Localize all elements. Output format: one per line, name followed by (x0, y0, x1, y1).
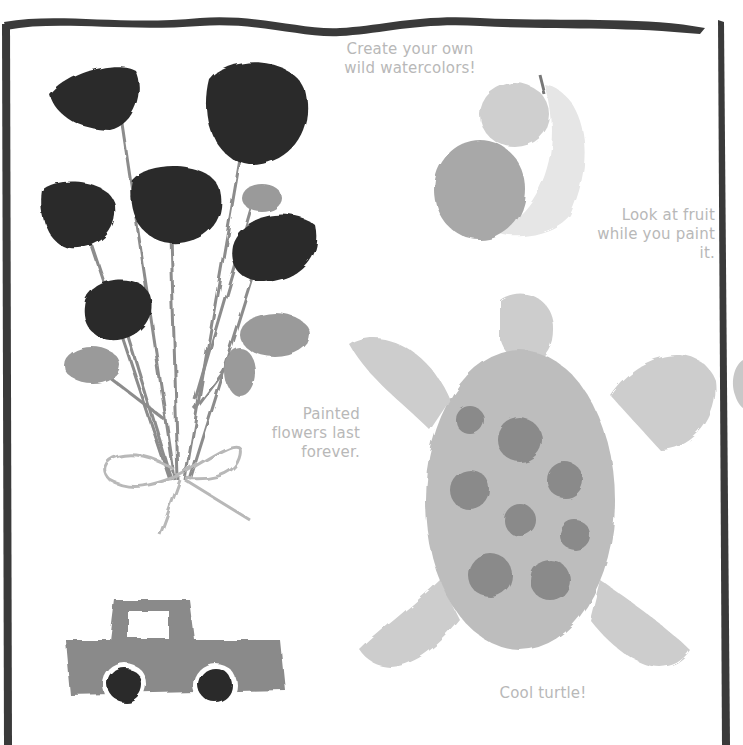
turtle-illustration (350, 293, 716, 666)
caption-create-watercolors: Create your own wild watercolors! (330, 40, 490, 78)
fruit-illustration (434, 75, 585, 240)
flower-bouquet (41, 62, 316, 535)
caption-painted-flowers: Painted flowers last forever. (255, 405, 360, 462)
watercolor-page-artwork (0, 0, 743, 745)
caption-cool-turtle: Cool turtle! (488, 684, 598, 703)
caption-look-at-fruit: Look at fruit while you paint it. (590, 206, 715, 263)
truck-illustration (65, 600, 285, 707)
